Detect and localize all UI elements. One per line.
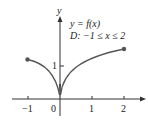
y-axis-label: y — [56, 5, 62, 16]
y-axis-arrow-icon — [58, 16, 63, 22]
function-graph: y −1 0 1 2 1 y = f(x) D: −1 ≤ x ≤ 2 — [0, 0, 148, 121]
x-axis-arrow-icon — [140, 97, 146, 102]
function-annotation: y = f(x) — [69, 18, 101, 30]
curve-right-branch — [61, 49, 125, 95]
left-endpoint-dot — [25, 57, 29, 61]
y-tick-label-1: 1 — [52, 60, 57, 71]
x-tick-label-2: 2 — [121, 103, 126, 114]
x-tick-label-0: 0 — [51, 103, 56, 114]
right-endpoint-dot — [122, 47, 126, 51]
x-tick-label-neg1: −1 — [22, 103, 33, 114]
x-tick-label-1: 1 — [89, 103, 94, 114]
domain-annotation: D: −1 ≤ x ≤ 2 — [69, 30, 125, 41]
